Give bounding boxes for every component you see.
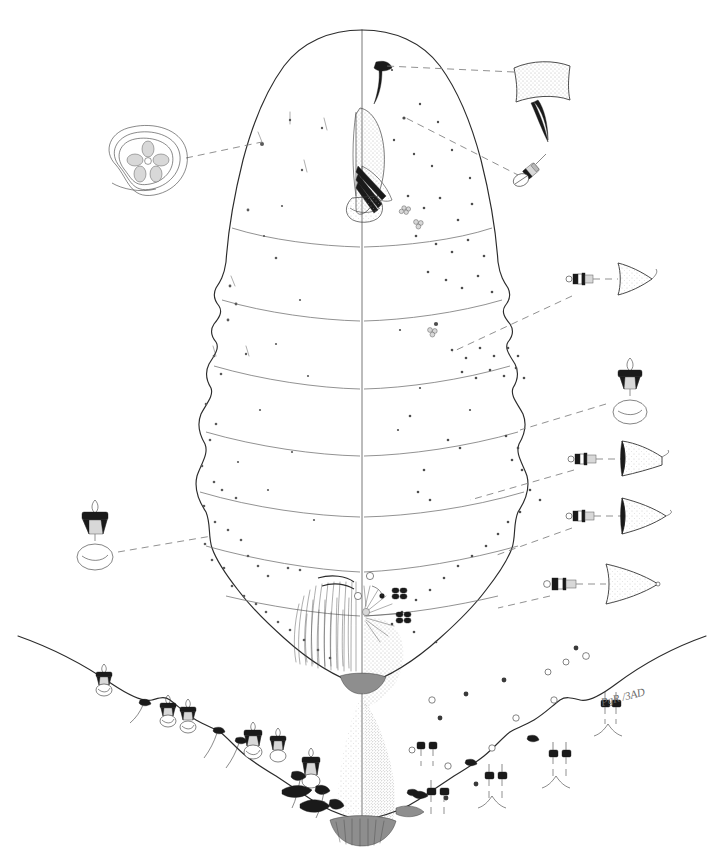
illustration-plate: PgR /3AD Adult female scale insect (Cocc… [0,0,724,859]
figure-canvas: PgR /3AD [0,0,724,859]
anal-ring [362,608,369,615]
